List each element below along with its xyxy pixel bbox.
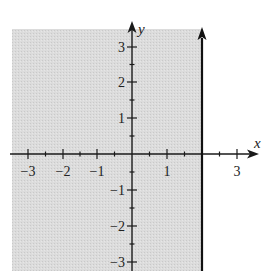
x-tick-label: 1: [164, 164, 171, 179]
y-tick-label: 3: [118, 40, 125, 55]
y-axis-label: y: [136, 21, 145, 37]
x-tick-label: −1: [90, 164, 105, 179]
y-tick-label: −3: [110, 255, 125, 270]
y-tick-label: −2: [110, 219, 125, 234]
y-tick-label: 2: [118, 75, 125, 90]
y-tick-label: −1: [110, 183, 125, 198]
x-tick-label: −2: [56, 164, 71, 179]
shaded-region: [12, 29, 202, 271]
x-tick-label: 3: [234, 164, 241, 179]
inequality-graph: x y −3 −2 −1 1 3 3 2 1 −1 −2 −3: [0, 0, 267, 271]
x-axis-label: x: [253, 135, 261, 151]
x-tick-label: −3: [21, 164, 36, 179]
y-tick-label: 1: [118, 111, 125, 126]
